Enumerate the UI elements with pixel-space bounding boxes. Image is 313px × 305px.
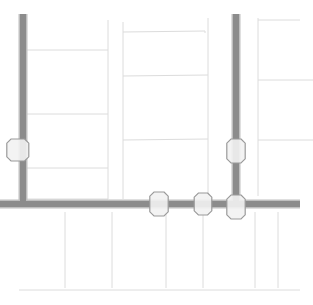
node-junction-east[interactable] [227,195,245,219]
node-east-upper[interactable] [227,139,245,163]
node-junction-left[interactable] [150,192,168,216]
map-background [0,0,313,305]
map-canvas[interactable] [0,0,313,305]
node-west-edge[interactable] [7,139,29,161]
map-viewport[interactable] [0,0,313,305]
node-junction-center[interactable] [194,193,212,215]
